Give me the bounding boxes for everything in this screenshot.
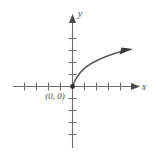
graph-figure: x y (0, 0) bbox=[0, 0, 157, 159]
y-axis-label: y bbox=[77, 9, 83, 19]
origin-point-marker bbox=[70, 84, 75, 89]
x-axis-label: x bbox=[141, 82, 147, 92]
x-axis-arrowhead-icon bbox=[131, 83, 140, 90]
coordinate-plane-svg: x y (0, 0) bbox=[0, 0, 157, 159]
origin-point-label: (0, 0) bbox=[45, 91, 65, 101]
y-axis-arrowhead-icon bbox=[69, 14, 76, 23]
curve-arrowhead-icon bbox=[120, 48, 134, 55]
square-root-curve bbox=[73, 51, 124, 87]
